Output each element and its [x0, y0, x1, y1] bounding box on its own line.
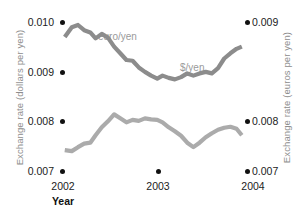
line-euro-yen — [65, 25, 242, 79]
line-dollar-yen — [65, 114, 242, 151]
plot-area — [0, 0, 298, 214]
exchange-rate-chart: Exchange rate (dollars per yen) Exchange… — [0, 0, 298, 214]
